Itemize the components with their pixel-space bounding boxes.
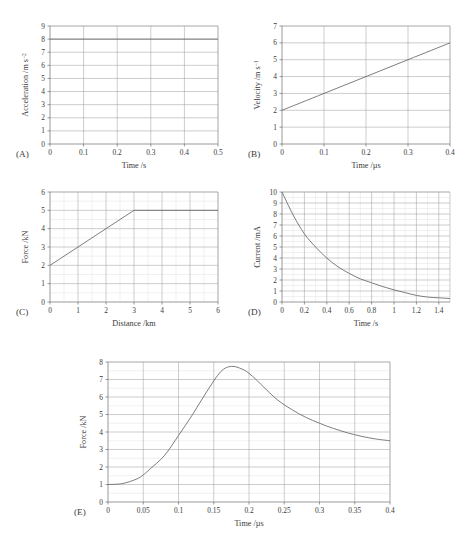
x-tick-label: 1.4 — [434, 306, 444, 315]
x-tick-label: 0.05 — [137, 506, 150, 515]
x-tick-label: 0 — [48, 306, 52, 315]
x-tick-label: 0.8 — [367, 306, 377, 315]
x-tick-label: 0 — [106, 506, 110, 515]
panel-letter: (C) — [16, 307, 28, 317]
x-tick-label: 0.2 — [113, 148, 123, 157]
y-tick-label: 2 — [99, 463, 103, 472]
y-tick-label: 5 — [99, 410, 103, 419]
x-tick-label: 3 — [132, 306, 136, 315]
y-tick-label: 0 — [273, 298, 277, 307]
y-tick-label: 4 — [41, 87, 45, 96]
y-tick-label: 2 — [41, 261, 45, 270]
x-tick-label: 4 — [160, 306, 164, 315]
data-series-current — [282, 192, 450, 298]
chart-d-content: 01234567891000.20.40.60.811.21.4Time /sC… — [248, 188, 450, 328]
x-axis-title: Time /s — [354, 319, 379, 328]
x-axis-title: Time /µs — [351, 161, 380, 170]
y-axis-title: Velocity /m s−1 — [253, 60, 262, 109]
x-tick-label: 0.1 — [79, 148, 89, 157]
x-tick-label: 0.5 — [213, 148, 223, 157]
y-tick-label: 8 — [41, 35, 45, 44]
y-tick-label: 5 — [41, 74, 45, 83]
y-tick-label: 10 — [270, 188, 278, 197]
y-tick-label: 4 — [41, 224, 45, 233]
chart-panel-c: 01234560123456Distance /kmForce /kN(C) — [8, 182, 230, 338]
x-tick-label: 0.6 — [345, 306, 355, 315]
y-tick-label: 5 — [273, 243, 277, 252]
x-tick-label: 0.2 — [300, 306, 310, 315]
y-tick-label: 4 — [99, 428, 103, 437]
y-tick-label: 9 — [41, 22, 45, 31]
x-tick-label: 1 — [392, 306, 396, 315]
y-tick-label: 2 — [273, 106, 277, 115]
y-tick-label: 6 — [41, 61, 45, 70]
y-tick-label: 1 — [273, 123, 277, 132]
x-tick-label: 0.2 — [244, 506, 254, 515]
chart-panel-a: 012345678900.10.20.30.40.5Time /sAcceler… — [8, 16, 230, 180]
y-tick-label: 7 — [273, 22, 277, 31]
x-tick-label: 5 — [188, 306, 192, 315]
chart-a-content: 012345678900.10.20.30.40.5Time /sAcceler… — [16, 22, 223, 170]
x-tick-label: 0 — [280, 148, 284, 157]
x-tick-label: 0.1 — [174, 506, 184, 515]
x-tick-label: 0.3 — [403, 148, 413, 157]
chart-panel-e: 01234567800.050.10.150.20.250.30.350.4Ti… — [62, 352, 412, 540]
y-tick-label: 7 — [41, 48, 45, 57]
x-tick-label: 0.4 — [322, 306, 332, 315]
panel-letter: (A) — [16, 149, 29, 159]
chart-svg-b: 0123456700.10.20.30.4Time /µsVelocity /m… — [240, 16, 462, 180]
chart-b-content: 0123456700.10.20.30.4Time /µsVelocity /m… — [248, 22, 455, 170]
y-tick-label: 4 — [273, 254, 277, 263]
y-tick-label: 9 — [273, 199, 277, 208]
y-tick-label: 1 — [41, 126, 45, 135]
panel-letter: (D) — [248, 307, 261, 317]
chart-c-content: 01234560123456Distance /kmForce /kN(C) — [16, 188, 220, 328]
x-tick-label: 0.15 — [207, 506, 220, 515]
y-tick-label: 1 — [41, 279, 45, 288]
y-tick-label: 2 — [273, 276, 277, 285]
y-tick-label: 3 — [41, 243, 45, 252]
x-tick-label: 0.35 — [348, 506, 361, 515]
y-tick-label: 3 — [99, 445, 103, 454]
x-tick-label: 2 — [104, 306, 108, 315]
x-tick-label: 0.3 — [146, 148, 156, 157]
y-tick-label: 5 — [273, 55, 277, 64]
figure-sheet: 012345678900.10.20.30.40.5Time /sAcceler… — [0, 0, 465, 544]
x-tick-label: 1.2 — [412, 306, 422, 315]
chart-svg-c: 01234560123456Distance /kmForce /kN(C) — [8, 182, 230, 338]
panel-letter: (E) — [74, 507, 86, 517]
chart-e-content: 01234567800.050.10.150.20.250.30.350.4Ti… — [74, 358, 395, 528]
y-tick-label: 0 — [273, 140, 277, 149]
x-tick-label: 0.2 — [361, 148, 371, 157]
y-tick-label: 7 — [273, 221, 277, 230]
y-axis-title: Current /mA — [253, 226, 262, 268]
chart-svg-a: 012345678900.10.20.30.40.5Time /sAcceler… — [8, 16, 230, 180]
y-tick-label: 6 — [273, 232, 277, 241]
x-tick-label: 0.1 — [319, 148, 329, 157]
x-axis-title: Time /s — [122, 161, 147, 170]
x-tick-label: 0 — [48, 148, 52, 157]
y-tick-label: 5 — [41, 206, 45, 215]
y-axis-title-exponent: −1 — [253, 60, 259, 66]
x-tick-label: 6 — [216, 306, 220, 315]
y-tick-label: 0 — [99, 498, 103, 507]
x-axis-title: Distance /km — [112, 319, 156, 328]
y-tick-label: 2 — [41, 113, 45, 122]
chart-svg-d: 01234567891000.20.40.60.811.21.4Time /sC… — [240, 182, 462, 338]
y-tick-label: 3 — [41, 100, 45, 109]
y-tick-label: 4 — [273, 72, 277, 81]
y-axis-title: Force /kN — [21, 230, 30, 263]
chart-panel-b: 0123456700.10.20.30.4Time /µsVelocity /m… — [240, 16, 462, 180]
y-tick-label: 6 — [41, 188, 45, 197]
chart-svg-e: 01234567800.050.10.150.20.250.30.350.4Ti… — [62, 352, 412, 540]
y-tick-label: 6 — [273, 38, 277, 47]
x-axis-title: Time /µs — [234, 519, 263, 528]
y-tick-label: 8 — [99, 358, 103, 367]
x-tick-label: 0.3 — [315, 506, 325, 515]
y-axis-title-exponent: −2 — [21, 53, 27, 59]
y-axis-title: Acceleration /m s−2 — [21, 53, 30, 117]
chart-panel-d: 01234567891000.20.40.60.811.21.4Time /sC… — [240, 182, 462, 338]
y-tick-label: 8 — [273, 210, 277, 219]
x-tick-label: 0.4 — [180, 148, 190, 157]
y-tick-label: 0 — [41, 298, 45, 307]
